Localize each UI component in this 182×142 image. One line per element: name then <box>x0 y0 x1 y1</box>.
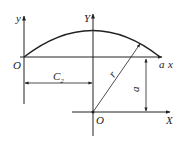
geometry-diagram: y O a x Y C2 r a O X <box>0 0 182 142</box>
label-lower-x: X <box>165 114 174 126</box>
label-arc-end: a <box>159 58 165 70</box>
label-upper-y: y <box>15 12 21 24</box>
radius-line <box>93 44 140 112</box>
label-lower-origin: O <box>96 114 104 126</box>
label-upper-x: x <box>167 58 173 70</box>
label-radius: r <box>106 68 119 79</box>
label-upper-origin: O <box>13 59 21 71</box>
circular-arc <box>24 31 160 58</box>
label-center-y: Y <box>84 12 92 24</box>
label-a-vertical: a <box>129 86 141 92</box>
